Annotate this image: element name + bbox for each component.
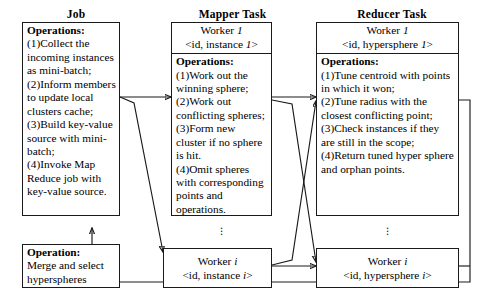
job-operations-box: Operations: (1)Collect the incoming inst… — [22, 22, 120, 216]
reducer-worker-first-title: Worker 1 <id, hypersphere 1> — [317, 23, 458, 54]
merge-operation-label: Operation: — [27, 246, 116, 259]
reducer-operations-label: Operations: — [321, 55, 455, 68]
mapper-worker-last-index: i — [234, 255, 237, 267]
wire-mapperi-to-reducer1 — [272, 101, 316, 265]
reducer-worker-last-box: Worker i <id, hypersphere i> — [316, 248, 459, 288]
mapper-operation-3: (3)Form new cluster if no sphere is hit. — [176, 122, 268, 162]
mapper-worker-last-key-prefix: <id, instance — [182, 269, 240, 281]
wire-job-to-mapper-workeri — [120, 97, 163, 252]
reducer-operation-4: (4)Return tuned hyper sphere and orphan … — [321, 149, 455, 176]
job-operation-3: (3)Build key-value source with mini-batc… — [27, 118, 116, 158]
mapper-operation-2: (2)Work out conflicting spheres; — [176, 95, 268, 122]
reducer-worker-first-index: 1 — [403, 24, 409, 36]
reducer-operation-2: (2)Tune radius with the closest conflict… — [321, 95, 455, 122]
mapper-operation-1: (1)Work out the winning sphere; — [176, 69, 268, 96]
reducer-worker-last-name: Worker — [368, 255, 402, 267]
mapper-worker-first-key-prefix: <id, instance — [185, 38, 243, 50]
job-operation-1: (1)Collect the incoming instances as min… — [27, 37, 116, 77]
column-header-job: Job — [0, 8, 152, 20]
reducer-worker-first-key-prefix: <id, hypersphere — [342, 38, 418, 50]
mapper-operations-label: Operations: — [176, 55, 268, 68]
reducer-operation-1: (1)Tune centroid with points in which it… — [321, 69, 455, 96]
mapper-worker-last-box: Worker i <id, instance i> — [163, 248, 272, 288]
reducer-worker-last-index: i — [404, 255, 407, 267]
reducer-operation-3: (3)Check instances if they are still in … — [321, 122, 455, 149]
wire-mapper1-to-reduceri — [272, 100, 316, 262]
reducer-ellipsis: ... — [316, 224, 459, 233]
mapper-worker-first-index: 1 — [237, 24, 243, 36]
column-header-mapper: Mapper Task — [160, 8, 305, 20]
merge-operation-text: Merge and select hyperspheres — [27, 259, 116, 286]
mapper-ellipsis: ... — [171, 224, 272, 233]
reducer-worker-first-name: Worker — [366, 24, 400, 36]
merge-operation-box: Operation: Merge and select hyperspheres — [22, 244, 120, 288]
mapper-operation-4: (4)Omit spheres with corresponding point… — [176, 163, 268, 217]
mapper-worker-first-title: Worker 1 <id, instance 1> — [172, 23, 271, 54]
job-operations-label: Operations: — [27, 24, 116, 37]
diagram-canvas: Job Mapper Task Reducer Task Operations:… — [0, 0, 477, 305]
reducer-worker-last-key-suffix: > — [425, 269, 431, 281]
mapper-worker-first-box: Worker 1 <id, instance 1> Operations: (1… — [171, 22, 272, 216]
reducer-worker-first-key-suffix: > — [427, 38, 433, 50]
mapper-worker-first-key-suffix: > — [251, 38, 257, 50]
mapper-worker-last-key-suffix: > — [246, 269, 252, 281]
reducer-worker-last-key-prefix: <id, hypersphere — [343, 269, 419, 281]
mapper-worker-last-name: Worker — [198, 255, 232, 267]
job-operation-2: (2)Inform members to update local cluste… — [27, 78, 116, 118]
job-operation-4: (4)Invoke Map Reduce job with key-value … — [27, 158, 116, 198]
mapper-worker-first-name: Worker — [200, 24, 234, 36]
column-header-reducer: Reducer Task — [312, 8, 472, 20]
reducer-worker-first-box: Worker 1 <id, hypersphere 1> Operations:… — [316, 22, 459, 216]
